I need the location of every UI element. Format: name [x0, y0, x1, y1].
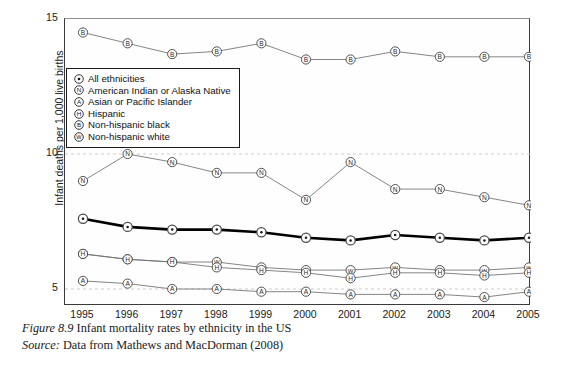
chart-legend: All ethnicitiesNAmerican Indian or Alask… — [66, 68, 240, 148]
x-tick-2003: 2003 — [417, 308, 461, 320]
svg-text:A: A — [393, 291, 398, 298]
svg-text:B: B — [76, 121, 80, 128]
svg-text:A: A — [527, 288, 531, 295]
source-label: Source: — [22, 338, 60, 352]
legend-label: Non-hispanic white — [88, 131, 170, 143]
svg-text:H: H — [76, 110, 80, 117]
svg-text:H: H — [214, 264, 219, 271]
svg-text:W: W — [76, 134, 82, 140]
x-tick-2001: 2001 — [328, 308, 372, 320]
x-tick-1995: 1995 — [60, 308, 104, 320]
data-point-H: H — [123, 255, 132, 264]
data-point-B: B — [346, 55, 355, 64]
data-point-N: N — [78, 176, 87, 185]
legend-item-american-indian-or-alaska-native: NAmerican Indian or Alaska Native — [72, 85, 231, 97]
data-point-B: B — [78, 28, 87, 37]
svg-text:B: B — [170, 51, 175, 58]
svg-text:B: B — [215, 48, 220, 55]
legend-item-non-hispanic-white: WNon-hispanic white — [72, 131, 231, 143]
figure-number: Figure 8.9 — [22, 321, 73, 335]
y-tick-5: 5 — [36, 281, 58, 293]
data-point-B: B — [212, 47, 221, 56]
legend-item-all-ethnicities: All ethnicities — [72, 73, 231, 85]
data-point-N: N — [168, 158, 177, 167]
x-tick-1997: 1997 — [149, 308, 193, 320]
circled-letter-W-icon: W — [72, 132, 85, 142]
data-point-A: A — [78, 276, 87, 285]
svg-text:B: B — [304, 56, 309, 63]
dot-in-circle-icon — [72, 74, 85, 84]
svg-text:A: A — [304, 288, 309, 295]
data-point-N: N — [257, 168, 266, 177]
data-point-A: A — [168, 284, 177, 293]
data-point-N: N — [435, 185, 444, 194]
svg-text:A: A — [170, 285, 175, 292]
data-point-H: H — [524, 268, 531, 277]
data-point-H: H — [78, 249, 87, 258]
x-tick-1998: 1998 — [194, 308, 238, 320]
svg-text:B: B — [81, 29, 86, 36]
data-point-O — [435, 233, 444, 242]
data-point-O — [391, 230, 400, 239]
x-tick-2000: 2000 — [283, 308, 327, 320]
circled-letter-H-icon: H — [72, 109, 85, 119]
data-point-N: N — [391, 185, 400, 194]
figure-container: Infant deaths per 1,000 live births 1510… — [0, 0, 565, 367]
data-point-B: B — [123, 39, 132, 48]
data-point-H: H — [346, 274, 355, 283]
data-point-B: B — [168, 50, 177, 59]
svg-text:N: N — [437, 186, 442, 193]
data-point-B: B — [257, 39, 266, 48]
data-point-A: A — [301, 287, 310, 296]
data-point-B: B — [391, 47, 400, 56]
data-point-H: H — [212, 263, 221, 272]
svg-text:B: B — [125, 40, 130, 47]
data-point-O — [78, 214, 87, 223]
data-point-N: N — [480, 193, 489, 202]
data-point-B: B — [480, 52, 489, 61]
data-point-A: A — [212, 284, 221, 293]
svg-text:N: N — [527, 202, 531, 209]
data-point-H: H — [391, 268, 400, 277]
data-point-A: A — [346, 290, 355, 299]
data-point-O — [524, 233, 531, 242]
figure-caption-text: Infant mortality rates by ethnicity in t… — [77, 321, 292, 335]
circled-letter-A-icon: A — [72, 97, 85, 107]
svg-text:B: B — [482, 53, 487, 60]
figure-source: Source: Data from Mathews and MacDorman … — [22, 337, 542, 354]
svg-text:N: N — [304, 196, 309, 203]
y-tick-10: 10 — [36, 146, 58, 158]
svg-text:H: H — [304, 269, 309, 276]
x-tick-1996: 1996 — [105, 308, 149, 320]
x-tick-1999: 1999 — [238, 308, 282, 320]
svg-text:A: A — [438, 291, 443, 298]
data-point-A: A — [257, 287, 266, 296]
svg-text:H: H — [393, 269, 398, 276]
legend-label: American Indian or Alaska Native — [88, 85, 231, 97]
data-point-H: H — [257, 266, 266, 275]
data-point-O — [168, 225, 177, 234]
data-point-A: A — [524, 287, 531, 296]
legend-item-asian-or-pacific-islander: AAsian or Pacific Islander — [72, 96, 231, 108]
svg-text:N: N — [393, 186, 398, 193]
data-point-N: N — [346, 158, 355, 167]
data-point-O — [257, 228, 266, 237]
plot-area: BBBBBBBBBBBNNNNNNNNNNNWWWWWWWWWWWHHHHHHH… — [64, 18, 530, 305]
data-point-A: A — [123, 279, 132, 288]
svg-text:B: B — [393, 48, 398, 55]
data-point-H: H — [168, 257, 177, 266]
legend-item-non-hispanic-black: BNon-hispanic black — [72, 119, 231, 131]
data-point-H: H — [435, 268, 444, 277]
svg-text:N: N — [76, 87, 80, 94]
svg-text:N: N — [125, 150, 130, 157]
svg-text:H: H — [527, 269, 531, 276]
data-point-A: A — [391, 290, 400, 299]
svg-text:A: A — [348, 291, 353, 298]
svg-text:H: H — [437, 269, 442, 276]
legend-label: Hispanic — [88, 108, 125, 120]
svg-text:H: H — [348, 275, 353, 282]
x-tick-2004: 2004 — [461, 308, 505, 320]
data-point-H: H — [301, 268, 310, 277]
x-tick-2005: 2005 — [506, 308, 550, 320]
svg-text:H: H — [125, 256, 130, 263]
